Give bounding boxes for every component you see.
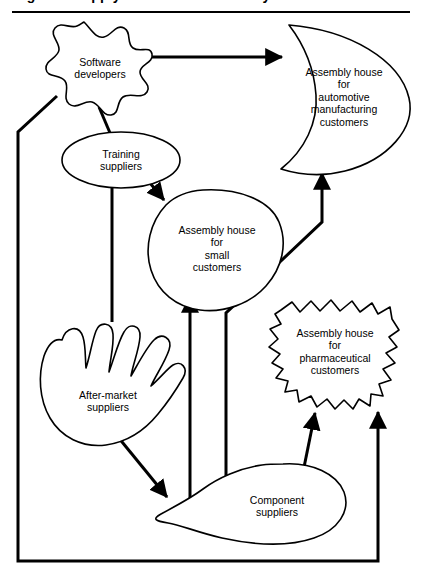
diagram-canvas: [0, 0, 422, 582]
node-shape-assembly-house-automotive[interactable]: [281, 25, 410, 175]
node-shape-training-suppliers[interactable]: [62, 132, 180, 188]
node-shape-assembly-house-pharmaceutical[interactable]: [269, 300, 399, 409]
supply-network-figure: Figure 1 Supply network for assembly hou…: [0, 0, 422, 582]
edge-after-market-to-component: [118, 437, 167, 497]
node-shape-component-suppliers[interactable]: [156, 464, 346, 544]
node-shape-after-market-suppliers[interactable]: [40, 324, 185, 445]
node-shape-assembly-house-small[interactable]: [148, 190, 283, 311]
node-shape-software-developers[interactable]: [46, 22, 152, 115]
